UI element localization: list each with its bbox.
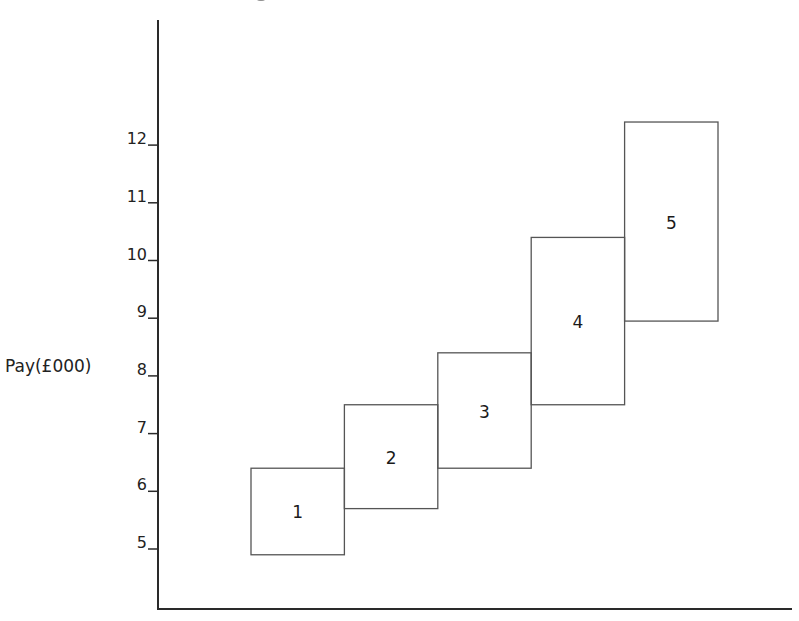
pay-range-chart: 56789101112 12345: [0, 0, 799, 621]
y-tick-label: 9: [137, 302, 147, 321]
box-label: 4: [572, 312, 583, 332]
box-label: 1: [292, 502, 303, 522]
y-tick-label: 12: [127, 129, 147, 148]
box-label: 2: [386, 448, 397, 468]
y-tick-label: 5: [137, 533, 147, 552]
box-label: 3: [479, 402, 490, 422]
axes: [157, 20, 792, 609]
y-tick-label: 7: [137, 418, 147, 437]
y-ticks: 56789101112: [127, 129, 158, 552]
pay-boxes: 12345: [251, 122, 718, 555]
y-tick-label: 10: [127, 245, 147, 264]
y-tick-label: 8: [137, 360, 147, 379]
y-tick-label: 6: [137, 475, 147, 494]
y-tick-label: 11: [127, 187, 147, 206]
box-label: 5: [666, 213, 677, 233]
